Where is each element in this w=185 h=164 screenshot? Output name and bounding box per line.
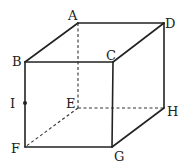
cube-diagram: A B C D E F G H I xyxy=(0,0,185,164)
edge-CG xyxy=(112,62,113,147)
vertex-label-D: D xyxy=(165,16,175,31)
vertex-label-G: G xyxy=(114,149,124,164)
vertex-label-B: B xyxy=(12,54,22,69)
vertex-label-E: E xyxy=(66,96,76,111)
vertex-label-F: F xyxy=(11,141,20,156)
edge-AB xyxy=(25,23,78,62)
point-label-I: I xyxy=(10,96,15,111)
edge-EF xyxy=(25,108,78,147)
edge-GH xyxy=(112,108,164,147)
vertex-label-H: H xyxy=(167,104,178,119)
vertex-label-C: C xyxy=(106,48,116,63)
point-I-marker xyxy=(23,101,27,105)
vertex-label-A: A xyxy=(67,8,78,23)
edge-CD xyxy=(113,23,164,62)
